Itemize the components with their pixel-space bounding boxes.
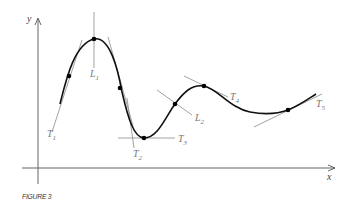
function-curve [60,39,316,138]
point-min [142,136,147,141]
label-T5: T5 [316,98,326,112]
label-T3: T3 [178,133,188,147]
point-T5 [286,108,291,113]
point-L2 [173,102,178,107]
label-L2: L2 [194,112,205,126]
point-peak [92,37,97,42]
tangent-lines [52,12,322,148]
x-axis-label: x [326,171,332,182]
point-right-of-peak [118,86,123,91]
figure-caption: FIGURE 3 [22,192,51,201]
label-T1: T1 [47,128,56,142]
label-L1: L1 [89,68,99,82]
y-axis-label: y [26,13,32,24]
point-T4 [202,84,207,89]
label-T2: T2 [133,148,143,162]
curve-points [67,37,291,141]
figure-diagram: y x T1 L1 T2 T3 [0,0,349,215]
line-labels: T1 L1 T2 T3 L2 T4 T5 [47,68,326,162]
point-T1 [67,74,72,79]
